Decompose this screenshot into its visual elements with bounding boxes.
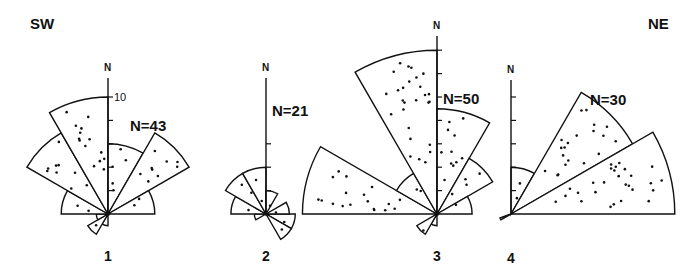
stipple-dot: [402, 87, 405, 90]
stipple-dot: [557, 173, 560, 176]
stipple-dot: [614, 140, 617, 143]
stipple-dot: [651, 165, 654, 168]
side-label-sw: SW: [30, 15, 54, 32]
stipple-dot: [569, 187, 572, 190]
stipple-dot: [450, 162, 453, 165]
stipple-dot: [461, 157, 464, 160]
stipple-dot: [448, 121, 451, 124]
stipple-dot: [349, 203, 352, 206]
stipple-dot: [390, 113, 393, 116]
stipple-dot: [453, 134, 456, 137]
scale-label-10: 10: [114, 91, 126, 103]
stipple-dot: [46, 170, 49, 173]
diagram-number-4: 4: [507, 250, 515, 266]
rose-diagrams-canvas: [0, 0, 696, 276]
stipple-dot: [332, 203, 335, 206]
stipple-dot: [478, 172, 481, 175]
stipple-dot: [450, 150, 453, 153]
stipple-dot: [612, 203, 615, 206]
stipple-dot: [55, 171, 58, 174]
stipple-dot: [65, 111, 68, 114]
stipple-dot: [176, 161, 179, 164]
stipple-dot: [281, 228, 284, 231]
stipple-dot: [416, 188, 419, 191]
stipple-dot: [455, 161, 458, 164]
stipple-dot: [125, 159, 128, 162]
stipple-dot: [70, 187, 73, 190]
stipple-dot: [447, 129, 450, 132]
stipple-dot: [138, 198, 141, 201]
stipple-dot: [176, 165, 179, 168]
stipple-dot: [80, 127, 83, 130]
stipple-dot: [418, 158, 421, 161]
stipple-dot: [613, 169, 616, 172]
stipple-dot: [385, 93, 388, 96]
side-label-ne: NE: [648, 15, 669, 32]
stipple-dot: [660, 179, 663, 182]
stipple-dot: [422, 229, 425, 232]
stipple-dot: [602, 134, 605, 137]
stipple-dot: [628, 184, 631, 187]
stipple-dot: [409, 155, 412, 158]
stipple-dot: [428, 100, 431, 103]
stipple-dot: [592, 181, 595, 184]
stipple-dot: [103, 168, 106, 171]
diagram-number-3: 3: [433, 248, 441, 264]
stipple-dot: [87, 116, 90, 119]
stipple-dot: [609, 206, 612, 209]
stipple-dot: [139, 173, 142, 176]
stipple-dot: [103, 158, 106, 161]
stipple-dot: [241, 183, 244, 186]
stipple-dot: [317, 198, 320, 201]
stipple-dot: [650, 182, 653, 185]
stipple-dot: [260, 200, 263, 203]
stipple-dot: [74, 171, 77, 174]
count-label-3: N=50: [443, 90, 479, 107]
rose-diagram-figure: [0, 0, 696, 276]
stipple-dot: [337, 170, 340, 173]
stipple-dot: [93, 165, 96, 168]
stipple-dot: [403, 101, 406, 104]
stipple-dot: [165, 160, 168, 163]
stipple-dot: [402, 108, 405, 111]
stipple-dot: [594, 191, 597, 194]
stipple-dot: [157, 175, 160, 178]
stipple-dot: [401, 99, 404, 102]
stipple-dot: [564, 164, 567, 167]
stipple-dot: [443, 179, 446, 182]
stipple-dot: [111, 182, 114, 185]
stipple-dot: [85, 184, 88, 187]
stipple-dot: [269, 204, 272, 207]
stipple-dot: [452, 164, 455, 167]
stipple-dot: [593, 124, 596, 127]
stipple-dot: [255, 179, 258, 182]
stipple-dot: [562, 154, 565, 157]
stipple-dot: [147, 180, 150, 183]
stipple-dot: [424, 94, 427, 97]
stipple-dot: [564, 195, 567, 198]
stipple-dot: [415, 99, 418, 102]
stipple-dot: [399, 62, 402, 65]
stipple-dot: [610, 167, 613, 170]
rose-sector: [254, 214, 266, 220]
stipple-dot: [392, 70, 395, 73]
stipple-dot: [58, 141, 61, 144]
north-label-3: N: [433, 20, 440, 31]
stipple-dot: [407, 65, 410, 68]
diagram-number-2: 2: [262, 248, 270, 264]
stipple-dot: [393, 207, 396, 210]
stipple-dot: [397, 89, 400, 92]
stipple-dot: [47, 167, 50, 170]
stipple-dot: [422, 72, 425, 75]
stipple-dot: [363, 193, 366, 196]
stipple-dot: [560, 147, 563, 150]
stipple-dot: [617, 175, 620, 178]
stipple-dot: [465, 183, 468, 186]
stipple-dot: [79, 131, 82, 134]
stipple-dot: [341, 205, 344, 208]
stipple-dot: [408, 80, 411, 83]
stipple-dot: [606, 125, 609, 128]
stipple-dot: [55, 164, 58, 167]
stipple-dot: [332, 176, 335, 179]
stipple-dot: [615, 165, 618, 168]
